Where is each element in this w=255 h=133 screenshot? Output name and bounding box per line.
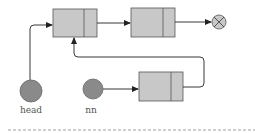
list-node-new: [139, 72, 183, 101]
node-data-cell: [131, 8, 175, 37]
linked-list-diagram: head nn: [0, 0, 255, 133]
nn-label: nn: [85, 105, 97, 115]
arrow-head-to-node1: [30, 25, 52, 80]
head-label: head: [20, 105, 42, 115]
node-data-cell: [139, 72, 183, 101]
node-data-cell: [53, 9, 97, 37]
nn-pointer-circle: [83, 79, 103, 99]
head-pointer-circle: [20, 80, 42, 102]
null-x-icon: [212, 15, 226, 29]
list-node-1: [53, 9, 97, 37]
list-node-2: [131, 8, 175, 37]
